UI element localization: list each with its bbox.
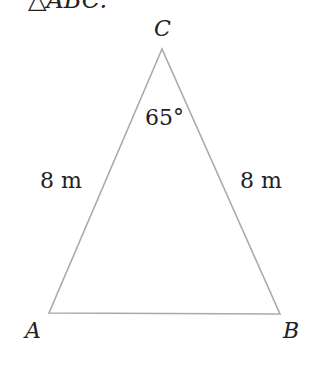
vertex-label-c: C <box>154 16 171 41</box>
angle-label-c: 65° <box>145 105 184 130</box>
vertex-label-b: B <box>283 318 299 343</box>
side-label-bc: 8 m <box>240 168 282 193</box>
side-label-ac: 8 m <box>40 168 82 193</box>
vertex-label-a: A <box>25 318 41 343</box>
